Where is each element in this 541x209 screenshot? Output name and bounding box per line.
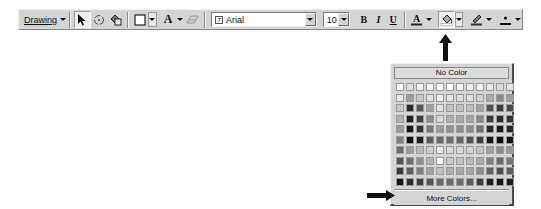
color-swatch[interactable] bbox=[436, 167, 444, 175]
color-swatch[interactable] bbox=[416, 94, 424, 102]
color-swatch[interactable] bbox=[486, 146, 494, 154]
color-swatch[interactable] bbox=[506, 178, 514, 186]
color-swatch[interactable] bbox=[436, 157, 444, 165]
more-colors-button[interactable]: More Colors... bbox=[394, 193, 509, 205]
no-color-button[interactable]: No Color bbox=[394, 67, 509, 79]
free-rotate-button[interactable] bbox=[91, 11, 108, 28]
color-swatch[interactable] bbox=[496, 125, 504, 133]
line-color-dropdown[interactable] bbox=[485, 11, 493, 28]
color-swatch[interactable] bbox=[486, 136, 494, 144]
color-swatch[interactable] bbox=[396, 146, 404, 154]
color-swatch[interactable] bbox=[446, 125, 454, 133]
color-swatch[interactable] bbox=[456, 136, 464, 144]
color-swatch[interactable] bbox=[396, 157, 404, 165]
color-swatch[interactable] bbox=[396, 94, 404, 102]
color-swatch[interactable] bbox=[426, 146, 434, 154]
color-swatch[interactable] bbox=[446, 136, 454, 144]
color-swatch[interactable] bbox=[486, 83, 494, 91]
color-swatch[interactable] bbox=[446, 167, 454, 175]
color-swatch[interactable] bbox=[426, 94, 434, 102]
color-swatch[interactable] bbox=[476, 146, 484, 154]
color-swatch[interactable] bbox=[456, 146, 464, 154]
color-swatch[interactable] bbox=[436, 115, 444, 123]
font-name-dropdown-button[interactable] bbox=[305, 13, 316, 26]
color-swatch[interactable] bbox=[426, 167, 434, 175]
color-swatch[interactable] bbox=[466, 167, 474, 175]
line-color-button[interactable] bbox=[468, 11, 485, 28]
color-swatch[interactable] bbox=[466, 136, 474, 144]
font-size-combobox[interactable]: 10 bbox=[323, 12, 351, 27]
color-swatch[interactable] bbox=[486, 178, 494, 186]
color-swatch[interactable] bbox=[466, 83, 474, 91]
color-swatch[interactable] bbox=[406, 115, 414, 123]
color-swatch[interactable] bbox=[406, 104, 414, 112]
italic-button[interactable]: I bbox=[371, 11, 386, 28]
color-swatch[interactable] bbox=[476, 157, 484, 165]
color-swatch[interactable] bbox=[486, 104, 494, 112]
color-swatch[interactable] bbox=[436, 136, 444, 144]
color-swatch[interactable] bbox=[416, 167, 424, 175]
color-swatch[interactable] bbox=[496, 178, 504, 186]
underline-button[interactable]: U bbox=[386, 11, 401, 28]
font-size-dropdown-button[interactable] bbox=[338, 13, 349, 26]
color-swatch[interactable] bbox=[466, 178, 474, 186]
color-swatch[interactable] bbox=[476, 94, 484, 102]
color-swatch[interactable] bbox=[426, 104, 434, 112]
color-swatch[interactable] bbox=[466, 94, 474, 102]
color-swatch[interactable] bbox=[446, 115, 454, 123]
color-swatch[interactable] bbox=[456, 115, 464, 123]
color-swatch[interactable] bbox=[456, 157, 464, 165]
color-swatch[interactable] bbox=[496, 157, 504, 165]
color-swatch[interactable] bbox=[416, 136, 424, 144]
color-swatch[interactable] bbox=[506, 94, 514, 102]
color-swatch[interactable] bbox=[476, 115, 484, 123]
fill-color-dropdown[interactable] bbox=[455, 12, 463, 27]
color-swatch[interactable] bbox=[416, 104, 424, 112]
color-swatch[interactable] bbox=[446, 157, 454, 165]
bold-button[interactable]: B bbox=[356, 11, 371, 28]
color-swatch[interactable] bbox=[456, 94, 464, 102]
color-swatch[interactable] bbox=[486, 157, 494, 165]
color-swatch[interactable] bbox=[476, 167, 484, 175]
color-swatch[interactable] bbox=[486, 167, 494, 175]
color-swatch[interactable] bbox=[416, 115, 424, 123]
autoshapes-button[interactable] bbox=[107, 11, 124, 28]
color-swatch[interactable] bbox=[396, 167, 404, 175]
color-swatch[interactable] bbox=[456, 167, 464, 175]
color-swatch[interactable] bbox=[476, 125, 484, 133]
color-swatch[interactable] bbox=[426, 157, 434, 165]
color-swatch[interactable] bbox=[506, 125, 514, 133]
color-swatch[interactable] bbox=[436, 104, 444, 112]
color-swatch[interactable] bbox=[496, 94, 504, 102]
color-swatch[interactable] bbox=[496, 115, 504, 123]
color-swatch[interactable] bbox=[506, 104, 514, 112]
color-swatch[interactable] bbox=[466, 146, 474, 154]
color-swatch[interactable] bbox=[466, 125, 474, 133]
color-swatch[interactable] bbox=[406, 136, 414, 144]
color-swatch[interactable] bbox=[426, 115, 434, 123]
color-swatch[interactable] bbox=[466, 157, 474, 165]
color-swatch[interactable] bbox=[486, 115, 494, 123]
font-color-text-button[interactable]: A bbox=[160, 11, 177, 28]
color-swatch[interactable] bbox=[426, 136, 434, 144]
color-swatch[interactable] bbox=[426, 178, 434, 186]
color-swatch[interactable] bbox=[416, 146, 424, 154]
color-swatch[interactable] bbox=[406, 125, 414, 133]
color-swatch[interactable] bbox=[456, 178, 464, 186]
color-swatch[interactable] bbox=[446, 94, 454, 102]
color-swatch[interactable] bbox=[396, 115, 404, 123]
color-swatch[interactable] bbox=[496, 83, 504, 91]
color-swatch[interactable] bbox=[436, 83, 444, 91]
color-swatch[interactable] bbox=[406, 178, 414, 186]
color-swatch[interactable] bbox=[506, 83, 514, 91]
color-swatch[interactable] bbox=[456, 83, 464, 91]
line-style-dropdown[interactable] bbox=[514, 11, 522, 28]
line-style-button[interactable] bbox=[497, 11, 514, 28]
color-swatch[interactable] bbox=[506, 167, 514, 175]
color-swatch[interactable] bbox=[436, 178, 444, 186]
color-swatch[interactable] bbox=[466, 104, 474, 112]
color-swatch[interactable] bbox=[476, 104, 484, 112]
color-swatch[interactable] bbox=[446, 104, 454, 112]
color-swatch[interactable] bbox=[416, 157, 424, 165]
select-objects-button[interactable] bbox=[74, 11, 91, 28]
